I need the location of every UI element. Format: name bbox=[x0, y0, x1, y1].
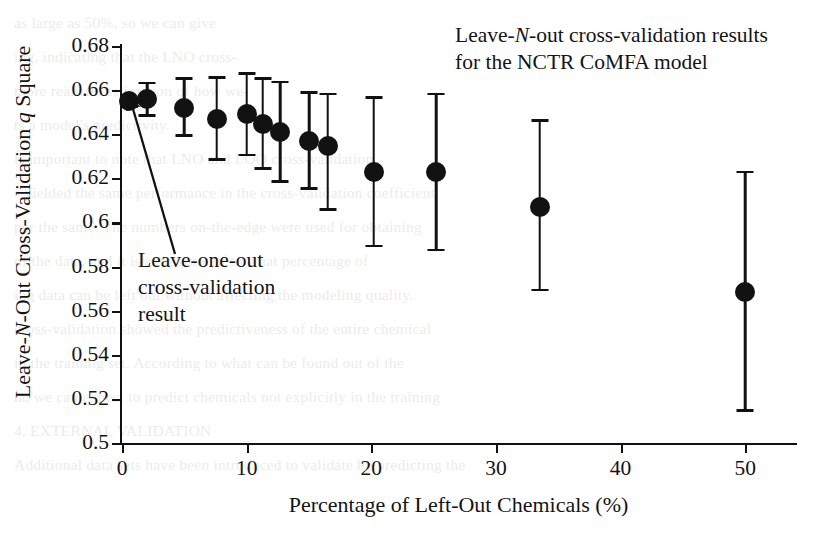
y-tick-mark bbox=[112, 443, 121, 445]
x-tick-mark bbox=[371, 444, 373, 453]
x-tick-label: 20 bbox=[361, 458, 383, 480]
data-point bbox=[270, 122, 290, 142]
x-tick-mark bbox=[745, 444, 747, 453]
data-point bbox=[318, 136, 338, 156]
annotation-line-1: Leave-one-out bbox=[138, 247, 275, 274]
chart-title-line-2: for the NCTR CoMFA model bbox=[455, 49, 768, 76]
y-axis-title-italic-n: N bbox=[10, 323, 35, 338]
error-bar-cap-lower bbox=[300, 187, 317, 190]
error-bar-cap-upper bbox=[531, 119, 548, 122]
y-tick-label: 0.58 bbox=[71, 256, 109, 278]
error-bar-cap-lower bbox=[238, 154, 255, 157]
y-tick-label: 0.6 bbox=[82, 212, 109, 234]
error-bar-cap-upper bbox=[319, 93, 336, 96]
error-bar-cap-upper bbox=[208, 76, 225, 79]
x-axis-title: Percentage of Left-Out Chemicals (%) bbox=[122, 492, 795, 518]
y-tick-mark bbox=[112, 399, 121, 401]
y-axis-title: Leave-N-Out Cross-Validation q Square bbox=[10, 22, 36, 422]
x-tick-mark bbox=[247, 444, 249, 453]
y-tick-label: 0.52 bbox=[71, 388, 109, 410]
error-bar-cap-upper bbox=[254, 77, 271, 80]
y-tick-mark bbox=[112, 267, 121, 269]
data-point bbox=[207, 109, 227, 129]
data-point bbox=[299, 131, 319, 151]
x-tick-label: 0 bbox=[117, 458, 128, 480]
error-bar-cap-lower bbox=[319, 208, 336, 211]
error-bar-cap-upper bbox=[238, 72, 255, 75]
error-bar-cap-lower bbox=[254, 167, 271, 170]
y-tick-label: 0.5 bbox=[82, 432, 109, 454]
y-tick-mark bbox=[112, 311, 121, 313]
error-bar-cap-lower bbox=[531, 289, 548, 292]
plot-area: 0.50.520.540.560.580.60.620.640.660.68 0… bbox=[122, 46, 795, 443]
x-tick-label: 40 bbox=[610, 458, 632, 480]
y-axis-title-text: Leave-N-Out Cross-Validation q Square bbox=[10, 46, 35, 399]
annotation-line-2: cross-validation bbox=[138, 274, 275, 301]
data-point bbox=[426, 162, 446, 182]
x-tick-mark bbox=[621, 444, 623, 453]
data-point bbox=[364, 162, 384, 182]
chart-title: Leave-N-out cross-validation results for… bbox=[455, 22, 768, 76]
error-bar-cap-lower bbox=[208, 158, 225, 161]
error-bar-cap-upper bbox=[365, 96, 382, 99]
data-point bbox=[735, 282, 755, 302]
data-point bbox=[530, 197, 550, 217]
y-tick-label: 0.68 bbox=[71, 35, 109, 57]
error-bar-cap-upper bbox=[300, 91, 317, 94]
x-tick-label: 50 bbox=[734, 458, 756, 480]
y-tick-label: 0.56 bbox=[71, 300, 109, 322]
error-bar-cap-upper bbox=[138, 82, 155, 85]
chart-title-italic-n: N bbox=[515, 23, 529, 47]
leave-one-out-annotation: Leave-one-out cross-validation result bbox=[138, 247, 275, 328]
error-bar-cap-upper bbox=[737, 171, 754, 174]
y-tick-label: 0.66 bbox=[71, 79, 109, 101]
error-bar-cap-upper bbox=[272, 81, 289, 84]
annotation-line-3: result bbox=[138, 301, 275, 328]
x-tick-mark bbox=[496, 444, 498, 453]
annotation-arrow-icon bbox=[120, 88, 190, 258]
chart-figure: 0.50.520.540.560.580.60.620.640.660.68 0… bbox=[0, 0, 819, 536]
x-tick-label: 10 bbox=[236, 458, 258, 480]
error-bar-cap-lower bbox=[272, 180, 289, 183]
y-tick-mark bbox=[112, 355, 121, 357]
error-bar-cap-upper bbox=[176, 77, 193, 80]
error-bar-cap-upper bbox=[428, 93, 445, 96]
x-tick-label: 30 bbox=[485, 458, 507, 480]
error-bar-cap-lower bbox=[737, 409, 754, 412]
x-axis-line bbox=[120, 443, 797, 445]
y-tick-label: 0.54 bbox=[71, 344, 109, 366]
y-tick-label: 0.64 bbox=[71, 123, 109, 145]
y-tick-label: 0.62 bbox=[71, 168, 109, 190]
chart-title-line-1: Leave-N-out cross-validation results bbox=[455, 22, 768, 49]
error-bar-cap-lower bbox=[428, 249, 445, 252]
y-tick-mark bbox=[112, 46, 121, 48]
y-axis-title-italic-q: q bbox=[10, 112, 35, 123]
x-tick-mark bbox=[122, 444, 124, 453]
error-bar-cap-lower bbox=[365, 245, 382, 248]
